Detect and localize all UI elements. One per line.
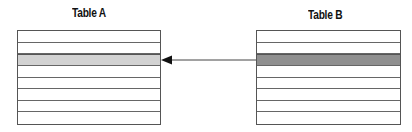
arrow-head-icon <box>161 56 172 65</box>
relationship-arrow <box>0 0 412 132</box>
